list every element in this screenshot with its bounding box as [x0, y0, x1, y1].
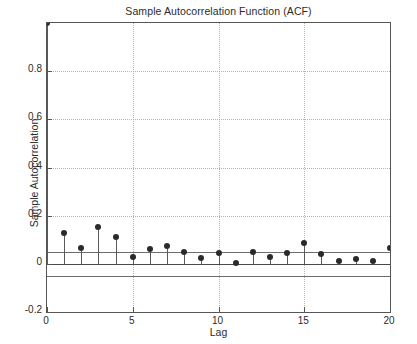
x-axis-tick-label: 0 — [26, 315, 66, 326]
y-axis-tick — [47, 216, 52, 217]
stem-marker — [336, 258, 342, 264]
stem-marker — [250, 249, 256, 255]
stem-marker — [130, 254, 136, 260]
x-axis-title: Lag — [46, 326, 391, 338]
x-axis-tick-label: 10 — [198, 315, 238, 326]
stem-line — [98, 227, 99, 264]
y-axis-tick — [47, 168, 52, 169]
x-axis-tick-label: 20 — [369, 315, 409, 326]
stem-marker — [147, 246, 153, 252]
y-axis-tick — [47, 264, 52, 265]
x-axis-tick — [47, 307, 48, 312]
gridline-vertical — [219, 23, 220, 312]
stem-marker — [47, 23, 50, 26]
page-title: Sample Autocorrelation Function (ACF) — [46, 5, 391, 17]
y-axis-tick-label: 0.6 — [2, 111, 42, 122]
stem-marker — [233, 260, 239, 266]
y-axis-tick — [47, 119, 52, 120]
gridline-vertical — [304, 23, 305, 312]
stem-marker — [78, 245, 84, 251]
gridline-vertical — [133, 23, 134, 312]
y-axis-tick-label: 0.8 — [2, 63, 42, 74]
y-axis-tick-label: 0 — [2, 256, 42, 267]
stem-marker — [353, 256, 359, 262]
stem-marker — [61, 230, 67, 236]
stem-line — [116, 237, 117, 263]
y-axis-tick-label: 0.4 — [2, 160, 42, 171]
stem-marker — [198, 255, 204, 261]
stem-marker — [164, 243, 170, 249]
zero-baseline — [47, 264, 390, 265]
stem-line — [304, 243, 305, 264]
plot-canvas — [47, 23, 390, 312]
y-axis-tick-label: 0.2 — [2, 208, 42, 219]
y-axis-tick-label: -0.2 — [2, 304, 42, 315]
stem-marker — [216, 250, 222, 256]
stem-line — [47, 23, 48, 264]
confidence-bound-lower — [47, 276, 390, 277]
stem-marker — [95, 224, 101, 230]
stem-marker — [318, 251, 324, 257]
y-axis-tick — [47, 71, 52, 72]
y-axis-title: Sample Autocorrelation — [28, 73, 40, 273]
plot-area — [46, 22, 391, 313]
x-axis-tick — [133, 307, 134, 312]
stem-line — [64, 233, 65, 264]
x-axis-tick-label: 5 — [112, 315, 152, 326]
acf-figure: Sample Autocorrelation Function (ACF) La… — [0, 0, 417, 344]
stem-marker — [181, 249, 187, 255]
x-axis-tick-label: 15 — [283, 315, 323, 326]
stem-marker — [387, 245, 390, 251]
stem-marker — [284, 250, 290, 256]
x-axis-tick — [304, 307, 305, 312]
stem-marker — [113, 234, 119, 240]
stem-marker — [267, 254, 273, 260]
stem-marker — [301, 240, 307, 246]
x-axis-tick — [219, 307, 220, 312]
